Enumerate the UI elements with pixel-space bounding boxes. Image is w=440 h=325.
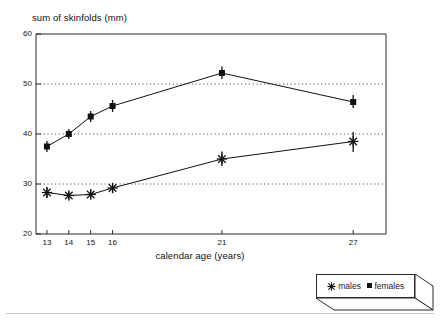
marker-asterisk-males-15 [85, 189, 95, 199]
y-tick-label-30: 30 [14, 179, 32, 188]
legend-front-face: males females [316, 274, 415, 298]
marker-square-females-14 [66, 131, 72, 137]
x-tick-label-15: 15 [81, 238, 101, 247]
x-tick-label-13: 13 [37, 238, 57, 247]
marker-asterisk-males-13 [42, 187, 52, 197]
asterisk-icon [327, 282, 336, 291]
legend-entry-females: females [367, 281, 404, 291]
bottom-divider [6, 313, 434, 314]
legend-label-females: females [374, 281, 404, 291]
y-tick-label-40: 40 [14, 129, 32, 138]
y-tick-label-50: 50 [14, 79, 32, 88]
marker-square-females-27 [350, 99, 356, 105]
marker-asterisk-males-16 [107, 183, 117, 193]
figure: sum of skinfolds (mm) 2030405060 1314151… [0, 0, 440, 325]
y-tick-marks [36, 34, 41, 234]
legend-label-males: males [338, 281, 361, 291]
x-axis-title: calendar age (years) [0, 250, 400, 261]
square-icon [367, 283, 372, 288]
x-tick-label-21: 21 [212, 238, 232, 247]
y-tick-label-20: 20 [14, 229, 32, 238]
marker-square-females-21 [219, 70, 225, 76]
marker-asterisk-males-21 [217, 154, 227, 164]
x-tick-marks [47, 230, 353, 234]
series-females [44, 67, 356, 153]
marker-asterisk-males-14 [64, 190, 74, 200]
x-tick-label-14: 14 [59, 238, 79, 247]
marker-square-females-16 [110, 103, 116, 109]
series-line-males [47, 142, 353, 196]
legend: males females [316, 270, 436, 314]
x-tick-label-27: 27 [343, 238, 363, 247]
marker-asterisk-males-27 [348, 136, 358, 146]
gridlines [36, 84, 386, 184]
legend-entry-males: males [327, 281, 361, 291]
y-tick-label-60: 60 [14, 29, 32, 38]
marker-square-females-15 [88, 114, 94, 120]
x-tick-label-16: 16 [103, 238, 123, 247]
legend-bottom-face [316, 298, 433, 310]
series-males [42, 132, 359, 201]
marker-square-females-13 [44, 144, 50, 150]
